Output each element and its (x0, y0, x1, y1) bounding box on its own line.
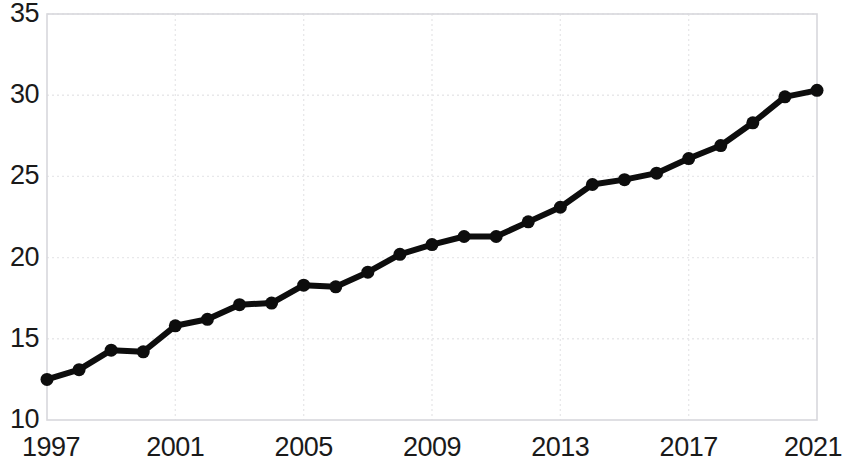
data-point: 2016: 25.2 (650, 167, 663, 180)
data-point: 2018: 26.9 (714, 139, 727, 152)
data-point: 2004: 17.2 (265, 297, 278, 310)
data-point: 2005: 18.3 (297, 279, 310, 292)
data-point: 2013: 23.1 (554, 201, 567, 214)
x-axis-tick-label: 2005 (275, 434, 333, 461)
x-axis-tick-label: 2009 (403, 434, 461, 461)
data-point: 2015: 24.8 (618, 173, 631, 186)
data-point: 2008: 20.2 (393, 248, 406, 261)
data-point: 1997: 12.5 (41, 373, 54, 386)
x-axis-tick-label: 2021 (784, 434, 842, 461)
data-point: 2021: 30.3 (811, 84, 824, 97)
data-point: 2003: 17.1 (233, 298, 246, 311)
data-point: 2006: 18.2 (329, 280, 342, 293)
data-point: 2020: 29.9 (778, 90, 791, 103)
data-point: 1999: 14.3 (105, 344, 118, 357)
data-point: 2014: 24.5 (586, 178, 599, 191)
y-axis-tick-label: 35 (0, 0, 39, 27)
y-axis-tick-label: 15 (0, 325, 39, 352)
y-axis-tick-label: 20 (0, 244, 39, 271)
data-point: 2002: 16.2 (201, 313, 214, 326)
y-axis-tick-label: 25 (0, 162, 39, 189)
data-point: 1998: 13.1 (73, 363, 86, 376)
y-axis-tick-label: 10 (0, 406, 39, 433)
data-point: 2001: 15.8 (169, 319, 182, 332)
data-point: 2010: 21.3 (458, 230, 471, 243)
data-point: 2011: 21.3 (490, 230, 503, 243)
data-point: 2009: 20.8 (426, 238, 439, 251)
data-point: 2019: 28.3 (746, 116, 759, 129)
data-point: 2007: 19.1 (361, 266, 374, 279)
x-axis-tick-label: 1997 (22, 434, 80, 461)
x-axis-tick-label: 2017 (660, 434, 718, 461)
data-point: 2000: 14.2 (137, 345, 150, 358)
x-axis-tick-label: 2013 (531, 434, 589, 461)
x-axis-tick-label: 2001 (146, 434, 204, 461)
y-axis-tick-label: 30 (0, 81, 39, 108)
data-point: 2012: 22.2 (522, 215, 535, 228)
data-point: 2017: 26.1 (682, 152, 695, 165)
